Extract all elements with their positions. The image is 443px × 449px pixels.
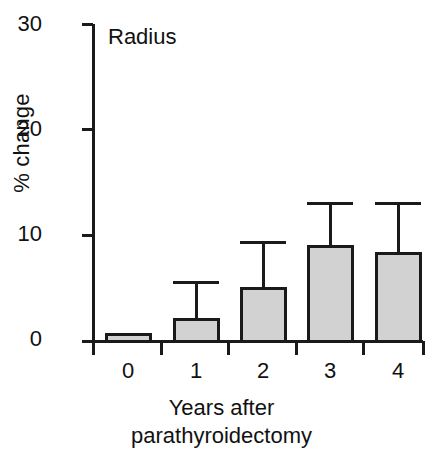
bar-group-0 — [106, 335, 150, 341]
bar-3 — [308, 247, 352, 341]
x-axis-title-line-1: Years after — [0, 394, 443, 422]
x-tick-marks — [93, 341, 423, 355]
bar-2 — [241, 288, 285, 341]
x-tick-label-0: 0 — [103, 358, 153, 384]
x-tick-label-2: 2 — [238, 358, 288, 384]
x-tick-label-4: 4 — [373, 358, 423, 384]
x-axis-title: Years after parathyroidectomy — [0, 394, 443, 449]
bar-group-1 — [173, 283, 219, 341]
bar-1 — [174, 320, 218, 341]
data-marks — [106, 204, 421, 341]
bar-group-2 — [240, 243, 286, 341]
bar-4 — [376, 253, 420, 341]
chart-figure: % change 30 20 10 0 Radius — [0, 0, 443, 449]
bar-0 — [106, 335, 150, 341]
bar-group-3 — [307, 204, 353, 341]
bar-group-4 — [375, 204, 421, 341]
x-tick-label-3: 3 — [305, 358, 355, 384]
x-tick-label-1: 1 — [171, 358, 221, 384]
y-tick-marks — [82, 24, 93, 341]
x-axis-title-line-2: parathyroidectomy — [0, 422, 443, 449]
